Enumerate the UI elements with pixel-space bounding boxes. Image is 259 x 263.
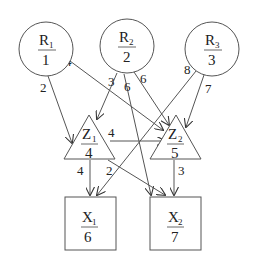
node-r3-sub: 3: [215, 40, 220, 50]
edge-label-z2-x2: 3: [178, 163, 185, 178]
edge-label-z1-x2: 2: [106, 163, 113, 178]
edge-label-r2-z1: 3: [108, 74, 115, 89]
node-x2: X 2 7: [150, 197, 201, 250]
node-x1: X 1 6: [65, 197, 116, 250]
node-r3: R 3 3: [185, 22, 239, 76]
node-r1-value: 1: [42, 52, 50, 68]
node-z1-letter: Z: [82, 126, 91, 142]
node-r1-sub: 1: [49, 40, 54, 50]
edge-r3-z2: [186, 75, 204, 127]
edge-label-r3-z2: 7: [205, 81, 212, 96]
network-diagram: 2 4 3 6 6 8 7 4 4 2 3 R 1 1 R 2 2 R 3 3 …: [0, 0, 259, 263]
edge-label-z1-z2: 4: [108, 125, 115, 140]
node-r1-letter: R: [39, 32, 49, 48]
node-x1-value: 6: [84, 229, 92, 245]
node-z2-value: 5: [171, 145, 179, 161]
edge-label-r2-z2: 6: [140, 71, 147, 86]
node-x2-value: 7: [171, 229, 179, 245]
edge-z1-x2: [108, 160, 165, 195]
node-z2-sub: 2: [178, 134, 183, 144]
node-z2: Z 2 5: [150, 115, 201, 161]
node-x2-sub: 2: [178, 217, 183, 227]
node-r3-letter: R: [205, 32, 215, 48]
node-z1-sub: 1: [92, 134, 97, 144]
node-x1-sub: 1: [92, 217, 97, 227]
node-r2: R 2 2: [100, 19, 154, 73]
node-r1: R 1 1: [19, 22, 73, 76]
node-r3-value: 3: [208, 52, 216, 68]
node-z1-value: 4: [85, 145, 93, 161]
node-r2-letter: R: [119, 29, 129, 45]
node-r2-value: 2: [123, 49, 131, 65]
edge-label-z1-x1: 4: [77, 163, 84, 178]
edge-r1-z1: [48, 76, 72, 143]
node-r2-sub: 2: [129, 37, 134, 47]
edge-label-r2-x2: 6: [124, 79, 131, 94]
node-z2-letter: Z: [168, 126, 177, 142]
edge-label-r1-z1: 2: [40, 80, 47, 95]
